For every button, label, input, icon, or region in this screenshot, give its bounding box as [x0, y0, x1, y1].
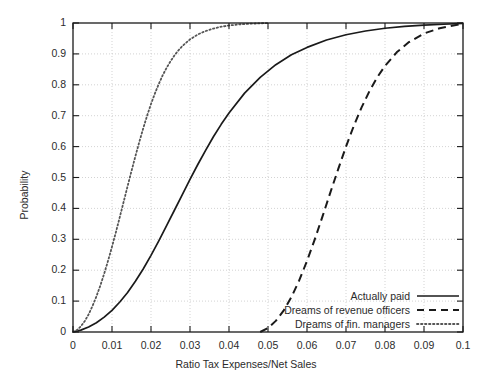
- legend-entry-label: Actually paid: [350, 290, 410, 302]
- dashed-line-key: [416, 305, 460, 315]
- legend-entry: Actually paid: [350, 289, 460, 303]
- y-tick-label: 0.8: [28, 78, 66, 90]
- y-tick-label: 0.9: [28, 47, 66, 59]
- y-tick-label: 0.3: [28, 232, 66, 244]
- y-tick-label: 0.7: [28, 109, 66, 121]
- solid-line-key: [416, 291, 460, 301]
- y-tick-label: 0.6: [28, 140, 66, 152]
- x-axis-label-text: Ratio Tax Expenses/Net Sales: [0, 358, 492, 370]
- y-tick-label: 0.4: [28, 201, 66, 213]
- dotted-line-key: [416, 319, 460, 329]
- y-tick-label: 0.5: [28, 171, 66, 183]
- y-tick-label: 1: [28, 16, 66, 28]
- legend-entry-label: Dreams of fin. managers: [295, 318, 410, 330]
- legend-entry: Dreams of fin. managers: [295, 317, 460, 331]
- y-tick-label: 0.2: [28, 263, 66, 275]
- plot-svg: [0, 0, 492, 390]
- y-tick-label: 0.1: [28, 294, 66, 306]
- figure-canvas: Probability Ratio Tax Expenses/Net Sales…: [0, 0, 492, 390]
- legend-entry: Dreams of revenue officers: [284, 303, 460, 317]
- x-tick-label: 0.1: [440, 339, 486, 351]
- legend-entry-label: Dreams of revenue officers: [284, 304, 410, 316]
- y-tick-label: 0: [28, 325, 66, 337]
